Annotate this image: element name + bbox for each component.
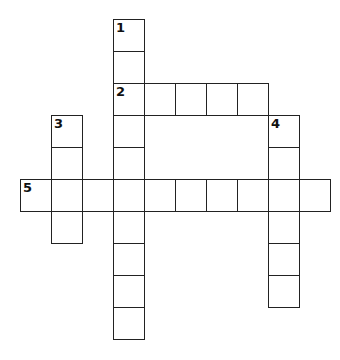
crossword-cell[interactable]: [237, 179, 269, 212]
clue-number: 2: [116, 84, 125, 99]
clue-number: 5: [23, 180, 32, 195]
crossword-cell[interactable]: [144, 179, 176, 212]
clue-number: 3: [54, 116, 63, 131]
crossword-cell[interactable]: [113, 307, 145, 340]
crossword-cell[interactable]: [51, 211, 83, 244]
crossword-cell[interactable]: [113, 211, 145, 244]
crossword-cell[interactable]: [51, 179, 83, 212]
crossword-cell[interactable]: [175, 83, 207, 116]
crossword-cell[interactable]: [268, 275, 300, 308]
crossword-cell[interactable]: [51, 147, 83, 180]
clue-number: 1: [116, 20, 125, 35]
crossword-grid: 12345: [0, 0, 340, 360]
crossword-cell[interactable]: [82, 179, 114, 212]
crossword-cell[interactable]: 1: [113, 19, 145, 52]
crossword-cell[interactable]: [144, 83, 176, 116]
crossword-cell[interactable]: [268, 179, 300, 212]
crossword-cell[interactable]: [113, 51, 145, 84]
crossword-cell[interactable]: 4: [268, 115, 300, 148]
crossword-cell[interactable]: [268, 147, 300, 180]
crossword-cell[interactable]: [268, 211, 300, 244]
crossword-cell[interactable]: [113, 147, 145, 180]
crossword-cell[interactable]: [113, 275, 145, 308]
crossword-cell[interactable]: [206, 179, 238, 212]
crossword-cell[interactable]: [175, 179, 207, 212]
crossword-cell[interactable]: [113, 243, 145, 276]
crossword-cell[interactable]: 2: [113, 83, 145, 116]
clue-number: 4: [271, 116, 280, 131]
crossword-cell[interactable]: [113, 115, 145, 148]
crossword-cell[interactable]: 3: [51, 115, 83, 148]
crossword-cell[interactable]: [299, 179, 331, 212]
crossword-cell[interactable]: [113, 179, 145, 212]
crossword-cell[interactable]: 5: [20, 179, 52, 212]
crossword-cell[interactable]: [268, 243, 300, 276]
crossword-cell[interactable]: [237, 83, 269, 116]
crossword-cell[interactable]: [206, 83, 238, 116]
